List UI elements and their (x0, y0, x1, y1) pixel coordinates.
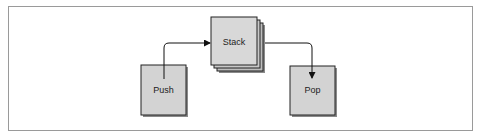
pop-node-label: Pop (304, 85, 320, 95)
pop-node: Pop (290, 66, 337, 117)
stack-node: Stack (211, 17, 265, 73)
push-node-label: Push (153, 85, 174, 95)
stack-node-label: Stack (223, 37, 246, 47)
stack-diagram: Push Stack Pop (0, 0, 482, 137)
